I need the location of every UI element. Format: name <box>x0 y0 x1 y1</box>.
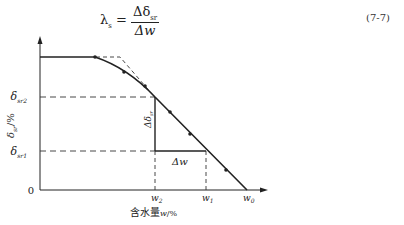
delta-w-label: Δw <box>171 156 188 167</box>
data-point <box>188 132 192 136</box>
shrinkage-curve-diagram: δsr2 δsr1 0 δsr/% w2 w1 w0 含水量w/% Δδsr Δ… <box>0 0 404 225</box>
data-point <box>224 168 228 172</box>
x-axis-arrow-icon <box>260 188 268 193</box>
data-point <box>122 70 126 74</box>
data-point <box>168 110 172 114</box>
data-point <box>93 55 97 59</box>
delta-delta-label: Δδsr <box>143 111 154 129</box>
svg-text:δsr/%: δsr/% <box>5 113 18 138</box>
origin-label: 0 <box>28 185 34 196</box>
tangent-construction <box>96 57 152 94</box>
x-tick-w1: w1 <box>202 193 214 204</box>
svg-text:Δδsr: Δδsr <box>143 111 154 129</box>
y-axis-label: δsr/% <box>5 113 18 138</box>
y-tick-sr1: δsr1 <box>11 145 27 159</box>
data-point <box>143 84 147 88</box>
y-tick-sr2: δsr2 <box>11 90 28 104</box>
x-tick-w2: w2 <box>151 193 163 204</box>
x-tick-w0: w0 <box>243 193 255 204</box>
x-axis-label: 含水量w/% <box>130 206 178 218</box>
y-axis-arrow-icon <box>38 36 43 44</box>
